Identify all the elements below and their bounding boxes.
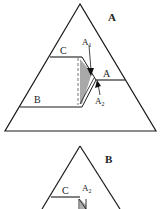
a1-arrow-line [89,45,91,70]
label-a: A [103,68,111,79]
label-a2-b: A2 [82,183,92,194]
triangle-b-left-edge [42,146,80,209]
ternary-diagrams: A C A B A1 A2 B C A2 [0,0,162,209]
panel-b: B C A2 [42,146,120,209]
panel-a: A C A B A1 A2 [5,4,156,131]
label-a2: A2 [95,96,105,107]
label-a1: A1 [82,37,92,48]
label-c: C [60,45,67,56]
shaded-region [80,59,92,104]
label-b: B [34,94,41,105]
panel-b-title: B [105,153,113,165]
label-c-b: C [62,185,69,196]
panel-a-title: A [108,11,116,23]
